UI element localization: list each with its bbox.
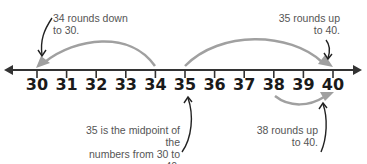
note-35-rounds-up: 35 rounds up to 40.	[262, 12, 340, 36]
arc-arrowhead-icon	[36, 56, 50, 68]
note-38-rounds-up: 38 rounds up to 40.	[250, 124, 318, 148]
note-34-rounds-down: 34 rounds down to 30.	[53, 12, 128, 36]
tick-label-31: 31	[52, 75, 82, 94]
pointer-midpoint-note	[182, 98, 191, 152]
arc-34-to-30	[45, 41, 155, 66]
tick-label-34: 34	[140, 75, 170, 94]
tick-label-36: 36	[200, 75, 230, 94]
tick-label-30: 30	[22, 75, 52, 94]
tick-label-39: 39	[288, 75, 318, 94]
tick-label-38: 38	[259, 75, 289, 94]
tick-label-40: 40	[318, 75, 348, 94]
tick-label-33: 33	[111, 75, 141, 94]
arc-38-to-40	[275, 96, 324, 104]
pointer-35-note	[326, 40, 329, 58]
arc-35-to-40	[185, 39, 322, 66]
tick-label-35: 35	[170, 75, 200, 94]
tick-label-32: 32	[81, 75, 111, 94]
note-midpoint: 35 is the midpoint of the numbers from 3…	[80, 124, 180, 164]
right-arrowhead-icon	[353, 65, 362, 75]
left-arrowhead-icon	[4, 65, 13, 75]
tick-label-37: 37	[229, 75, 259, 94]
pointer-38-note	[321, 104, 326, 152]
pointer-34-note	[41, 18, 52, 55]
